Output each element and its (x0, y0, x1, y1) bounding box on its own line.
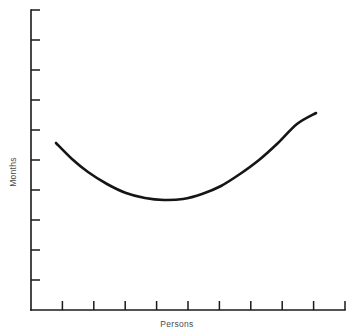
axes-group (31, 10, 345, 310)
data-series-group (56, 113, 316, 200)
chart-plot-area: Persons Months (0, 0, 355, 335)
x-axis-ticks (62, 301, 345, 310)
y-axis-label: Months (8, 157, 18, 187)
y-axis-ticks (31, 10, 40, 280)
x-axis-label: Persons (160, 319, 193, 329)
data-curve (56, 113, 316, 200)
chart-container: Persons Months (0, 0, 355, 335)
